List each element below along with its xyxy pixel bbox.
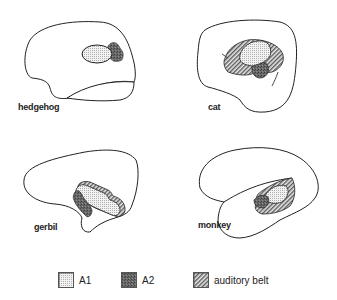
legend-item-belt: auditory belt [193,272,268,288]
belt-swatch-icon [193,272,209,288]
a1-swatch-icon [58,272,74,288]
legend: A1 A2 auditory belt [0,272,337,292]
legend-label-a1: A1 [79,275,91,286]
legend-label-belt: auditory belt [214,275,268,286]
cat-label: cat [208,102,220,112]
hedgehog-a1 [82,45,112,63]
gerbil-brain [24,150,138,232]
legend-item-a2: A2 [121,272,154,288]
auditory-cortex-diagram [0,0,337,300]
cat-brain [197,20,296,112]
hedgehog-brain [25,22,135,101]
legend-item-a1: A1 [58,272,91,288]
legend-label-a2: A2 [142,275,154,286]
hedgehog-label: hedgehog [18,102,59,112]
a2-swatch-icon [121,272,137,288]
monkey-label: monkey [198,220,231,230]
gerbil-label: gerbil [34,222,57,232]
